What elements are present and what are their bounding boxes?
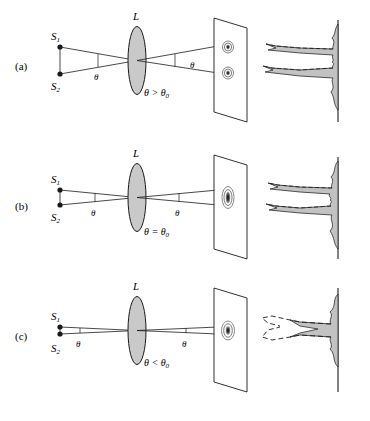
lens-label: L <box>132 10 139 22</box>
panel-c-label: (c) <box>15 330 28 343</box>
object-angle-label: θ <box>94 72 99 82</box>
airy-disk-single <box>222 321 235 340</box>
lens-label: L <box>132 147 139 159</box>
image-angle-label: θ <box>175 208 180 218</box>
panel-b-label: (b) <box>15 200 28 213</box>
optical-resolution-figure: (a) S1 S2 θ L θ θ > θ0 <box>0 0 370 421</box>
image-angle-label: θ <box>182 339 187 349</box>
lens-label: L <box>132 280 139 292</box>
screen-plane <box>214 288 247 392</box>
panel-a-label: (a) <box>15 60 28 73</box>
airy-disk-lower <box>223 67 234 79</box>
image-angle-label: θ <box>190 60 195 70</box>
airy-disk-merged <box>222 187 234 209</box>
object-angle-label: θ <box>91 208 96 218</box>
object-angle-label: θ <box>76 339 81 349</box>
airy-disk-upper <box>223 41 234 53</box>
screen-plane <box>214 155 247 259</box>
